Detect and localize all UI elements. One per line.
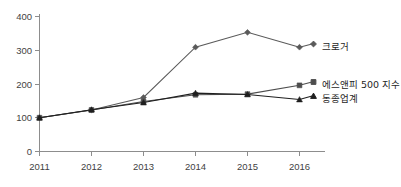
data-point-kroger-2015: [245, 29, 251, 35]
series-peers: [37, 90, 303, 120]
legend-label-sp500: 에스앤피 500 지수: [322, 79, 400, 90]
y-tick-marks: [35, 17, 40, 152]
line-peers: [40, 93, 300, 118]
y-axis-label-400: 400: [16, 11, 32, 22]
x-axis-label-2016: 2016: [289, 161, 310, 172]
x-axis-label-2013: 2013: [133, 161, 154, 172]
series-kroger: [37, 29, 303, 120]
y-tick-labels: 400 300 200 100 0: [16, 11, 32, 157]
legend-item-kroger[interactable]: 크로거: [311, 41, 349, 52]
series-sp500: [37, 83, 302, 120]
legend-label-peers: 동종업계: [322, 93, 358, 104]
series-layer: [37, 29, 303, 120]
line-sp500: [40, 85, 300, 117]
x-axis-label-2012: 2012: [81, 161, 102, 172]
line-kroger: [40, 32, 300, 117]
chart-svg: 400 300 200 100 0 2011 2012 2013 2014 20…: [0, 0, 401, 187]
y-axis-label-100: 100: [16, 112, 32, 123]
legend: 크로거 에스앤피 500 지수 동종업계: [311, 41, 401, 104]
legend-item-sp500[interactable]: 에스앤피 500 지수: [311, 79, 400, 90]
y-axis-label-0: 0: [27, 146, 32, 157]
legend-item-peers[interactable]: 동종업계: [311, 93, 358, 104]
axis-group: [40, 14, 326, 152]
legend-label-kroger: 크로거: [322, 41, 349, 52]
x-axis-label-2011: 2011: [29, 161, 49, 172]
x-axis-label-2014: 2014: [185, 161, 206, 172]
x-axis-label-2015: 2015: [237, 161, 258, 172]
x-tick-labels: 2011 2012 2013 2014 2015 2016: [29, 161, 310, 172]
leader-line-kroger: [300, 44, 313, 47]
y-axis-label-300: 300: [16, 45, 32, 56]
leader-line-peers: [300, 96, 313, 100]
performance-line-chart: 400 300 200 100 0 2011 2012 2013 2014 20…: [0, 0, 401, 187]
legend-leader-lines: [300, 44, 313, 100]
x-tick-marks: [40, 152, 300, 157]
y-axis-label-200: 200: [16, 79, 32, 90]
square-icon: [311, 80, 316, 85]
diamond-icon: [311, 41, 317, 47]
